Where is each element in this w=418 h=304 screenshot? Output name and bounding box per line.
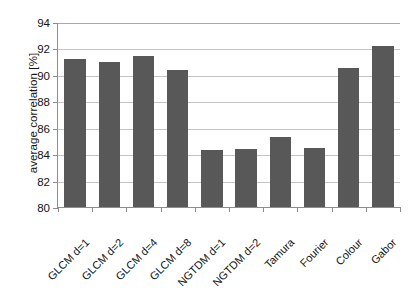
x-tick-mark: [195, 207, 196, 212]
y-tick-label-80: 80: [37, 202, 50, 214]
bar: [304, 148, 325, 207]
y-tick-mark-82: [53, 182, 58, 183]
bar: [133, 56, 154, 207]
y-tick-label-82: 82: [37, 176, 50, 188]
x-tick-label: Tamura: [262, 236, 296, 270]
bar: [372, 46, 393, 207]
y-tick-label-94: 94: [37, 17, 50, 29]
y-tick-label-92: 92: [37, 43, 50, 55]
y-tick-mark-90: [53, 76, 58, 77]
gridline-92: [58, 49, 400, 50]
bar: [270, 137, 291, 207]
x-tick-mark: [58, 207, 59, 212]
bar: [99, 62, 120, 207]
x-tick-mark: [332, 207, 333, 212]
x-tick-mark: [297, 207, 298, 212]
x-tick-mark: [263, 207, 264, 212]
gridline-94: [58, 23, 400, 24]
x-tick-mark: [92, 207, 93, 212]
y-tick-mark-92: [53, 49, 58, 50]
bar: [235, 149, 256, 207]
bar: [167, 70, 188, 207]
plot-area: 8082848688909294GLCM d=1GLCM d=2GLCM d=4…: [57, 23, 400, 208]
bar: [201, 150, 222, 207]
y-tick-label-84: 84: [37, 149, 50, 161]
x-tick-mark: [126, 207, 127, 212]
y-tick-mark-88: [53, 102, 58, 103]
y-tick-mark-94: [53, 23, 58, 24]
x-tick-mark: [366, 207, 367, 212]
y-tick-label-86: 86: [37, 123, 50, 135]
x-tick-mark: [400, 207, 401, 212]
x-tick-label: Gabor: [369, 236, 399, 266]
y-tick-mark-86: [53, 129, 58, 130]
x-tick-label: Fourier: [297, 236, 330, 269]
x-tick-mark: [161, 207, 162, 212]
bar: [64, 59, 85, 207]
y-tick-label-88: 88: [37, 96, 50, 108]
x-tick-label: Colour: [333, 236, 364, 267]
y-tick-mark-84: [53, 155, 58, 156]
bar-chart: average correlation [%] 8082848688909294…: [0, 0, 418, 304]
bar: [338, 68, 359, 207]
x-tick-mark: [229, 207, 230, 212]
y-tick-label-90: 90: [37, 70, 50, 82]
